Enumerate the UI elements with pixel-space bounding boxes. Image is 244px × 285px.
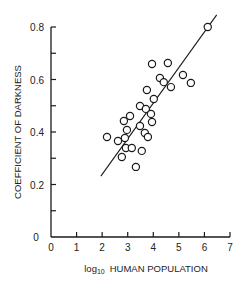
data-point xyxy=(147,110,154,117)
y-tick-label: 0.8 xyxy=(30,22,44,33)
data-point xyxy=(132,163,139,170)
data-point xyxy=(148,118,155,125)
data-point xyxy=(160,79,167,86)
data-point xyxy=(118,153,125,160)
y-axis: 00.20.40.60.8 xyxy=(30,22,56,243)
x-axis-label-main: HUMAN POPULATION xyxy=(110,263,208,274)
regression-line xyxy=(101,15,217,176)
y-tick-label: 0.6 xyxy=(30,75,44,86)
x-tick-label: 3 xyxy=(125,242,131,253)
x-axis-label: log10HUMAN POPULATION xyxy=(84,263,208,275)
data-point xyxy=(114,137,121,144)
data-point xyxy=(148,60,155,67)
data-point xyxy=(123,126,130,133)
data-point xyxy=(128,144,135,151)
x-tick-label: 7 xyxy=(227,242,233,253)
scatter-chart: 00.20.40.60.8 01234567 COEFFICIENT OF DA… xyxy=(0,0,244,285)
data-point xyxy=(126,112,133,119)
y-tick-label: 0.2 xyxy=(30,180,44,191)
data-point xyxy=(150,95,157,102)
data-point xyxy=(167,84,174,91)
x-axis-label-subscript: 10 xyxy=(97,268,105,275)
y-axis-label: COEFFICIENT OF DARKNESS xyxy=(12,65,23,199)
data-point xyxy=(136,122,143,129)
data-point xyxy=(204,23,211,30)
x-tick-label: 0 xyxy=(48,242,54,253)
x-tick-label: 6 xyxy=(202,242,208,253)
x-tick-label: 5 xyxy=(176,242,182,253)
data-point xyxy=(138,147,145,154)
x-tick-label: 4 xyxy=(151,242,157,253)
data-point xyxy=(120,117,127,124)
x-axis: 01234567 xyxy=(48,232,233,253)
data-point xyxy=(103,133,110,140)
data-point xyxy=(179,71,186,78)
fit-line xyxy=(101,15,217,176)
data-point xyxy=(187,79,194,86)
y-tick-label: 0.4 xyxy=(30,127,44,138)
data-point xyxy=(144,133,151,140)
x-axis-label-log: log xyxy=(84,263,97,274)
x-tick-label: 2 xyxy=(99,242,105,253)
data-point xyxy=(164,59,171,66)
data-point xyxy=(121,134,128,141)
x-tick-label: 1 xyxy=(74,242,80,253)
data-point xyxy=(143,86,150,93)
y-tick-label: 0 xyxy=(33,232,39,243)
